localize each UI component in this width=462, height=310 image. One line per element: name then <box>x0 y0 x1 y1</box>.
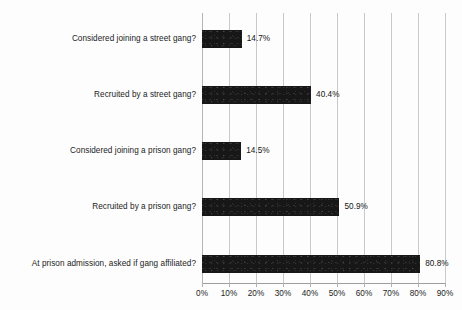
x-tick-label: 80% <box>410 289 427 299</box>
x-tick-label: 0% <box>196 289 208 299</box>
x-tick-mark-90pct <box>445 283 446 287</box>
x-tick-mark-0pct <box>202 283 203 287</box>
category-label: At prison admission, asked if gang affil… <box>0 259 196 269</box>
bar <box>202 86 311 104</box>
x-tick-mark-10pct <box>229 283 230 287</box>
bar <box>202 142 241 160</box>
bar-row: At prison admission, asked if gang affil… <box>0 255 462 273</box>
category-label: Recruited by a street gang? <box>0 90 196 100</box>
bar <box>202 30 242 48</box>
bar <box>202 255 420 273</box>
x-tick-mark-20pct <box>256 283 257 287</box>
bar-value-label: 40.4% <box>316 90 339 100</box>
bar-value-label: 14.7% <box>247 34 270 44</box>
bar-row: Recruited by a street gang?40.4% <box>0 86 462 104</box>
bar-value-label: 80.8% <box>425 259 448 269</box>
category-label: Considered joining a prison gang? <box>0 146 196 156</box>
x-tick-label: 40% <box>302 289 319 299</box>
x-tick-mark-50pct <box>337 283 338 287</box>
bar-value-label: 50.9% <box>344 202 367 212</box>
x-tick-label: 50% <box>329 289 346 299</box>
x-tick-label: 70% <box>383 289 400 299</box>
bar <box>202 198 339 216</box>
x-tick-label: 30% <box>275 289 292 299</box>
bar-chart: Considered joining a street gang?14.7%Re… <box>0 0 462 310</box>
bar-row: Recruited by a prison gang?50.9% <box>0 198 462 216</box>
x-tick-mark-70pct <box>391 283 392 287</box>
bar-value-label: 14.5% <box>246 146 269 156</box>
bar-row: Considered joining a prison gang?14.5% <box>0 142 462 160</box>
x-tick-label: 10% <box>221 289 238 299</box>
x-tick-label: 20% <box>248 289 265 299</box>
x-tick-label: 90% <box>437 289 454 299</box>
bar-row: Considered joining a street gang?14.7% <box>0 30 462 48</box>
x-tick-mark-30pct <box>283 283 284 287</box>
x-tick-label: 60% <box>356 289 373 299</box>
x-tick-mark-40pct <box>310 283 311 287</box>
x-tick-mark-60pct <box>364 283 365 287</box>
x-axis-line <box>202 283 446 284</box>
category-label: Considered joining a street gang? <box>0 34 196 44</box>
category-label: Recruited by a prison gang? <box>0 202 196 212</box>
x-tick-mark-80pct <box>418 283 419 287</box>
